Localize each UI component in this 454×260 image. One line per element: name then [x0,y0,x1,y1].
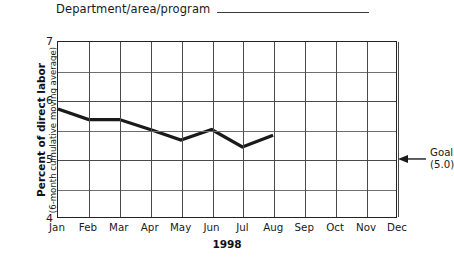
gridline-vertical [182,42,183,217]
gridline-vertical [305,42,306,217]
gridline-horizontal-major [58,101,396,102]
gridline-horizontal-minor [58,131,396,132]
goal-label-group: Goal (5.0) [430,147,454,171]
x-axis-tick-labels: JanFebMarAprMayJunJulAugSepOctNovDec [57,221,397,235]
y-axis-title-container: Percent of direct labor (6-month cumulat… [14,41,36,218]
gridline-vertical [367,42,368,217]
gridline-vertical [336,42,337,217]
x-axis-tick-label: Nov [356,221,376,233]
y-axis-tick-label: 7 [39,35,53,48]
percent-direct-labor-line [58,109,273,147]
gridline-vertical [274,42,275,217]
x-axis-tick-label: Jan [49,221,65,233]
goal-annotation: Goal (5.0) [398,147,454,171]
gridline-horizontal-major [58,160,396,161]
gridline-horizontal-minor [58,190,396,191]
y-axis-tick-label: 6 [39,94,53,107]
gridline-vertical [120,42,121,217]
gridline-horizontal-minor [58,72,396,73]
department-header-row: Department/area/program [56,2,369,16]
x-axis-tick-label: Feb [79,221,97,233]
x-axis-tick-label: Oct [326,221,344,233]
data-line-series [58,42,396,217]
x-axis-tick-label: Dec [387,221,407,233]
gridline-vertical [398,42,399,217]
department-header-label: Department/area/program [56,2,210,16]
x-axis-tick-label: Jun [203,221,219,233]
gridline-vertical [213,42,214,217]
x-axis-tick-label: Aug [263,221,283,233]
x-axis-tick-label: May [170,221,191,233]
left-arrow-icon [398,154,426,164]
department-blank-field[interactable] [217,3,369,13]
x-axis-tick-label: Apr [141,221,159,233]
y-axis-tick-labels: 4567 [38,41,53,218]
goal-label: Goal [430,147,453,158]
x-axis-tick-label: Mar [109,221,128,233]
gridline-vertical [243,42,244,217]
gridline-vertical [151,42,152,217]
x-axis-tick-label: Sep [295,221,314,233]
chart-plot-area [57,41,397,218]
gridline-vertical [89,42,90,217]
x-axis-title: 1998 [57,238,397,250]
goal-value-label: (5.0) [430,159,454,171]
x-axis-tick-label: Jul [236,221,248,233]
y-axis-tick-label: 5 [39,153,53,166]
